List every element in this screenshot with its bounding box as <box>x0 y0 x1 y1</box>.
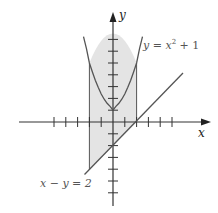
parabola-suffix: + 1 <box>176 39 199 52</box>
coordinate-plane <box>0 0 218 213</box>
y-axis-arrow-icon <box>110 12 117 22</box>
x-axis-arrow-icon <box>201 119 211 126</box>
y-axis-label: y <box>119 9 126 21</box>
parabola-prefix: y = x <box>143 39 172 52</box>
line-equation-label: x − y = 2 <box>40 178 92 189</box>
parabola-equation-label: y = x2 + 1 <box>143 39 199 51</box>
x-axis-label: x <box>198 127 205 139</box>
